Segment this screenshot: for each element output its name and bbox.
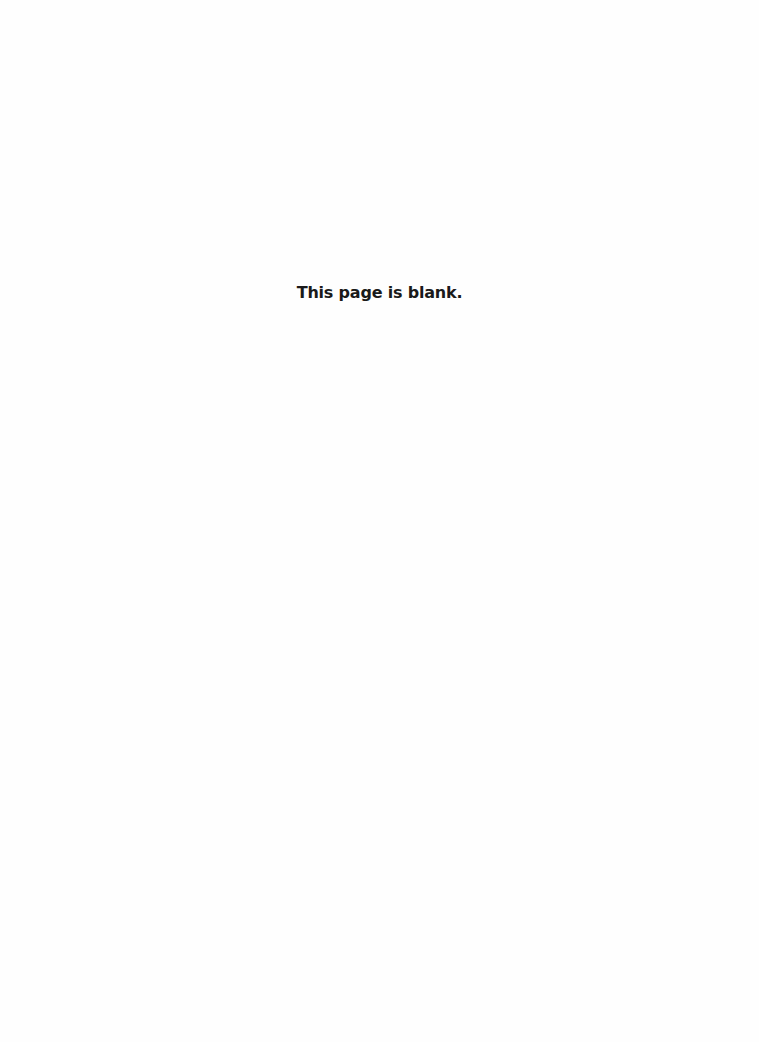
document-page: This page is blank. bbox=[0, 0, 759, 1042]
blank-page-notice: This page is blank. bbox=[0, 283, 759, 302]
